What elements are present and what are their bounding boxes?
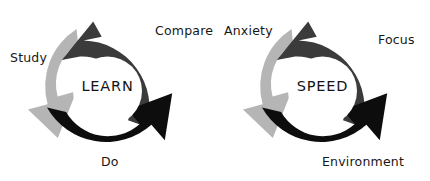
speed-cycle-diagram: SPEED Anxiety Focus Environment: [215, 0, 430, 181]
center-disc: [73, 57, 142, 126]
label-do: Do: [101, 154, 119, 169]
label-compare: Compare: [155, 23, 213, 38]
learn-cycle-diagram: LEARN Study Compare Do: [0, 0, 215, 181]
label-focus: Focus: [378, 32, 415, 47]
label-environment: Environment: [322, 154, 404, 169]
label-study: Study: [10, 50, 47, 65]
diagram-canvas: LEARN Study Compare Do SPEED Anxiety Foc…: [0, 0, 430, 181]
label-anxiety: Anxiety: [224, 23, 273, 38]
center-disc: [288, 57, 357, 126]
